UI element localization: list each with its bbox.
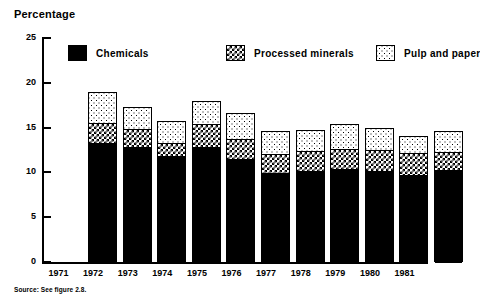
bar-segment-chemicals-1978 [331, 170, 358, 263]
bar-segment-chemicals-1974 [193, 148, 220, 263]
bar-segment-processed-minerals-1981 [435, 153, 462, 171]
bar-segment-processed-minerals-1977 [297, 152, 324, 173]
bar-1979[interactable] [365, 128, 394, 262]
legend-label: Processed minerals [254, 48, 354, 59]
bar-segment-pulp-and-paper-1972 [124, 108, 151, 130]
bar-1976[interactable] [261, 131, 290, 262]
plot-area [44, 38, 424, 262]
bar-1977[interactable] [296, 130, 325, 262]
bar-segment-pulp-and-paper-1981 [435, 132, 462, 153]
bar-segment-pulp-and-paper-1979 [366, 129, 393, 151]
bar-1973[interactable] [157, 121, 186, 262]
bar-segment-pulp-and-paper-1973 [158, 122, 185, 144]
bar-1978[interactable] [330, 124, 359, 262]
bar-segment-chemicals-1972 [124, 148, 151, 263]
solid-black-swatch [68, 45, 87, 61]
bar-segment-chemicals-1979 [366, 172, 393, 263]
bar-segment-processed-minerals-1975 [227, 140, 254, 160]
legend-item-chemicals[interactable]: Chemicals [68, 45, 149, 61]
bar-1981[interactable] [434, 131, 463, 262]
bar-segment-processed-minerals-1972 [124, 130, 151, 148]
light-dots-swatch [376, 45, 395, 61]
bar-segment-processed-minerals-1979 [366, 151, 393, 172]
bar-1980[interactable] [399, 136, 428, 262]
bar-1974[interactable] [192, 101, 221, 262]
bar-segment-pulp-and-paper-1975 [227, 114, 254, 140]
bar-segment-pulp-and-paper-1978 [331, 125, 358, 150]
legend-item-pulp-and-paper[interactable]: Pulp and paper [376, 45, 480, 61]
bar-segment-chemicals-1976 [262, 174, 289, 263]
y-axis-tick-label: 15 [6, 122, 36, 132]
source-note: Source: See figure 2.8. [14, 286, 86, 293]
bar-1972[interactable] [123, 107, 152, 262]
bar-segment-chemicals-1971 [89, 144, 116, 263]
bar-segment-processed-minerals-1974 [193, 125, 220, 148]
legend-item-processed-minerals[interactable]: Processed minerals [226, 45, 354, 61]
x-axis-tick-label-1981: 1981 [385, 268, 425, 278]
legend-label: Chemicals [96, 48, 149, 59]
bar-segment-processed-minerals-1980 [400, 154, 427, 176]
checkerboard-swatch [226, 45, 245, 61]
bar-1971[interactable] [88, 92, 117, 262]
page-title: Percentage [14, 8, 75, 20]
bar-segment-pulp-and-paper-1974 [193, 102, 220, 125]
y-axis-tick-label: 5 [6, 211, 36, 221]
bar-segment-processed-minerals-1971 [89, 124, 116, 144]
bar-segment-processed-minerals-1973 [158, 144, 185, 157]
y-axis-tick-label: 20 [6, 77, 36, 87]
bar-segment-processed-minerals-1976 [262, 155, 289, 175]
bar-segment-chemicals-1981 [435, 171, 462, 263]
bar-segment-pulp-and-paper-1977 [297, 131, 324, 152]
bar-segment-pulp-and-paper-1976 [262, 132, 289, 154]
y-axis-tick-label: 0 [6, 256, 36, 266]
y-axis-tick-label: 10 [6, 166, 36, 176]
bar-segment-chemicals-1973 [158, 157, 185, 263]
y-axis-tick-label: 25 [6, 32, 36, 42]
bar-segment-pulp-and-paper-1971 [89, 93, 116, 124]
bar-segment-pulp-and-paper-1980 [400, 137, 427, 154]
bar-segment-chemicals-1980 [400, 176, 427, 263]
bar-segment-chemicals-1975 [227, 160, 254, 263]
bar-segment-processed-minerals-1978 [331, 150, 358, 170]
bar-1975[interactable] [226, 113, 255, 262]
bar-segment-chemicals-1977 [297, 172, 324, 262]
legend-label: Pulp and paper [404, 48, 480, 59]
